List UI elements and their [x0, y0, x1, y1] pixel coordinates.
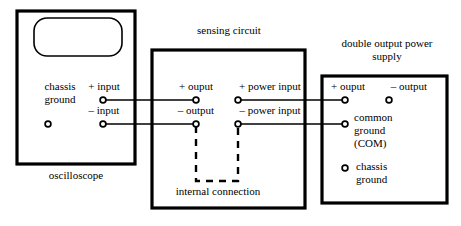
terminal-sensing-minus-power-input[interactable] [235, 121, 241, 127]
oscilloscope-chassis-ground-label-line2: ground [30, 94, 90, 106]
terminal-osc-minus-input[interactable] [100, 121, 106, 127]
terminal-supply-common-ground[interactable] [342, 121, 348, 127]
power-supply-chassis-ground-line1: chassis [356, 161, 387, 173]
power-supply-common-ground-line1: common [354, 112, 393, 124]
oscilloscope-minus-input-label: – input [73, 105, 135, 117]
terminal-osc-chassis-ground[interactable] [45, 121, 51, 127]
terminal-sensing-plus-power-input[interactable] [235, 97, 241, 103]
power-supply-caption-line1: double output power [326, 38, 448, 50]
diagram-canvas: chassis ground + input – input oscillosc… [0, 0, 461, 226]
sensing-circuit-minus-output-label: – output [162, 105, 230, 117]
terminal-sensing-minus-output[interactable] [193, 121, 199, 127]
sensing-circuit-plus-output-label: + ouput [162, 81, 230, 93]
power-supply-caption-line2: supply [326, 51, 448, 63]
terminal-supply-minus-output[interactable] [386, 97, 392, 103]
crt-screen-icon [34, 18, 122, 56]
oscilloscope-caption: oscilloscope [26, 170, 126, 182]
terminal-sensing-plus-output[interactable] [193, 97, 199, 103]
sensing-circuit-caption: sensing circuit [178, 25, 280, 37]
terminal-supply-plus-output[interactable] [342, 97, 348, 103]
sensing-circuit-minus-power-input-label: – power input [228, 105, 312, 117]
power-supply-common-ground-line2: ground [354, 125, 385, 137]
internal-connection-label: internal connection [163, 186, 273, 198]
power-supply-chassis-ground-line2: ground [356, 174, 387, 186]
power-supply-minus-output-label: – output [378, 81, 440, 93]
terminal-osc-plus-input[interactable] [100, 97, 106, 103]
power-supply-common-ground-line3: (COM) [354, 138, 386, 150]
sensing-circuit-plus-power-input-label: + power input [228, 81, 312, 93]
power-supply-plus-output-label: + ouput [320, 81, 376, 93]
terminal-supply-chassis-ground[interactable] [342, 165, 348, 171]
oscilloscope-plus-input-label: + input [73, 81, 135, 93]
